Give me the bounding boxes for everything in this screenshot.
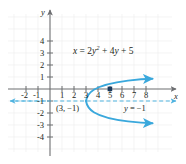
x-tick-label-5: 5 <box>108 91 112 100</box>
vertex-label: (3, −1) <box>56 104 79 113</box>
parabola-plot <box>0 0 186 164</box>
y-tick-label-neg3: -3 <box>37 121 44 130</box>
y-tick-label-neg1: -1 <box>37 97 44 106</box>
y-tick-label-1: 1 <box>40 73 44 82</box>
x-tick-label-2: 2 <box>72 91 76 100</box>
y-axis <box>47 10 53 156</box>
axis-of-symmetry-label: y = −1 <box>124 104 146 113</box>
equation-operator: = 2 <box>77 46 92 56</box>
y-tick-label-2: 2 <box>40 61 44 70</box>
y-tick-label-4: 4 <box>40 37 44 46</box>
y-tick-label-neg4: -4 <box>37 133 44 142</box>
equation-middle: + 4 <box>100 46 115 56</box>
y-axis-label: y <box>41 8 45 17</box>
equation-label: x = 2y2 + 4y + 5 <box>73 45 133 57</box>
symmetry-value: = −1 <box>128 103 146 113</box>
x-tick-label-3: 3 <box>84 91 88 100</box>
y-tick-label-neg2: -2 <box>37 109 44 118</box>
figure-container: y x -2 -1 1 2 3 4 5 6 7 8 4 3 2 1 -1 -2 … <box>0 0 186 164</box>
x-tick-label-neg2: -2 <box>21 91 28 100</box>
y-tick-label-3: 3 <box>40 49 44 58</box>
x-tick-label-8: 8 <box>144 91 148 100</box>
x-axis-label: x <box>174 92 178 101</box>
grid-lines <box>8 14 172 152</box>
x-tick-label-7: 7 <box>132 91 136 100</box>
x-tick-label-6: 6 <box>120 91 124 100</box>
x-tick-label-4: 4 <box>96 91 100 100</box>
equation-constant: + 5 <box>119 46 134 56</box>
x-tick-label-1: 1 <box>60 91 64 100</box>
